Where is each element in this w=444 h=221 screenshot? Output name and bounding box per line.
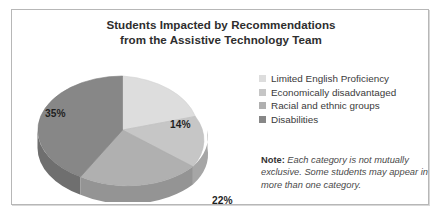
legend-swatch-icon xyxy=(259,89,266,96)
chart-legend: Limited English Proficiency Economically… xyxy=(259,72,437,126)
chart-title-line-1: Students Impacted by Recommendations xyxy=(12,18,430,33)
note-lead-label: Note: xyxy=(261,155,285,165)
pie-chart: 35% 14% 22% 29% xyxy=(18,54,240,202)
pie-chart-svg xyxy=(18,54,240,202)
legend-swatch-icon xyxy=(259,102,266,109)
pie-value-label-limited-english-proficiency: 14% xyxy=(170,119,191,130)
chart-note: Note: Each category is not mutually excl… xyxy=(261,154,433,191)
pie-value-label-disabilities: 35% xyxy=(45,108,66,119)
legend-swatch-icon xyxy=(259,75,266,82)
chart-panel: Students Impacted by Recommendations fro… xyxy=(11,9,429,205)
legend-item-disabilities: Disabilities xyxy=(259,113,437,126)
pie-value-label-economically-disadvantaged: 22% xyxy=(212,195,233,206)
legend-label: Disabilities xyxy=(271,113,318,126)
legend-label: Economically disadvantaged xyxy=(271,86,396,99)
page-title: Students Impacted by Recommendations fro… xyxy=(12,18,430,47)
legend-item-limited-english-proficiency: Limited English Proficiency xyxy=(259,72,437,85)
legend-label: Limited English Proficiency xyxy=(271,72,389,85)
legend-label: Racial and ethnic groups xyxy=(271,99,380,112)
note-body-text: Each category is not mutually exclusive.… xyxy=(261,155,428,190)
chart-title-line-2: from the Assistive Technology Team xyxy=(12,33,430,48)
legend-item-racial-and-ethnic-groups: Racial and ethnic groups xyxy=(259,99,437,112)
legend-swatch-icon xyxy=(259,116,266,123)
legend-item-economically-disadvantaged: Economically disadvantaged xyxy=(259,86,437,99)
